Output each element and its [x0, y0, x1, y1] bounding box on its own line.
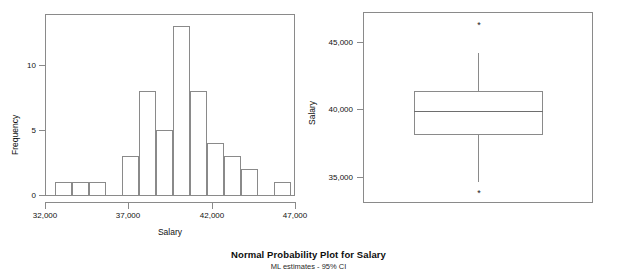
histogram-xtick	[212, 203, 213, 209]
histogram-xtick-label: 42,000	[192, 211, 232, 220]
figure-canvas: 0 5 10 32,000 37,000 42,000 47,000 Salar…	[0, 0, 617, 277]
histogram-xaxis-title: Salary	[130, 227, 210, 237]
histogram-xtick	[295, 203, 296, 209]
histogram-plot-area	[45, 14, 295, 196]
histogram-bar	[122, 156, 139, 195]
histogram-bar	[139, 91, 156, 195]
histogram-xtick	[128, 203, 129, 209]
histogram-yaxis-title: Frequency	[10, 115, 20, 155]
histogram-ytick	[39, 65, 45, 66]
boxplot-outlier-marker: *	[474, 189, 484, 198]
histogram-xtick-label: 37,000	[108, 211, 148, 220]
histogram-xaxis-line	[45, 202, 296, 203]
boxplot-box	[414, 91, 543, 135]
histogram-bar	[241, 169, 258, 195]
histogram-ytick-label: 0	[14, 191, 36, 200]
histogram-ytick	[39, 130, 45, 131]
boxplot-ytick-label: 35,000	[315, 173, 353, 182]
histogram-panel: 0 5 10 32,000 37,000 42,000 47,000 Salar…	[0, 0, 330, 240]
boxplot-ytick	[357, 109, 363, 110]
histogram-bar	[274, 182, 291, 195]
boxplot-ytick-label: 45,000	[315, 38, 353, 47]
figure-caption: Normal Probability Plot for Salary ML es…	[0, 249, 617, 272]
histogram-bar	[156, 130, 173, 195]
histogram-xtick-label: 32,000	[25, 211, 65, 220]
histogram-xtick-label: 47,000	[275, 211, 315, 220]
boxplot-plot-area: * *	[363, 12, 593, 203]
caption-title: Normal Probability Plot for Salary	[0, 249, 617, 261]
histogram-ytick	[39, 195, 45, 196]
boxplot-outlier-marker: *	[474, 21, 484, 30]
histogram-bar	[207, 143, 224, 195]
boxplot-ytick	[357, 42, 363, 43]
histogram-bars	[46, 15, 294, 195]
boxplot-panel: * * 45,000 40,000 35,000 Salary	[330, 0, 617, 240]
boxplot-ytick	[357, 177, 363, 178]
histogram-xtick	[45, 203, 46, 209]
boxplot-yaxis-title: Salary	[307, 101, 317, 125]
boxplot-median-line	[414, 111, 543, 112]
histogram-bar	[190, 91, 207, 195]
boxplot-ytick-label: 40,000	[315, 105, 353, 114]
histogram-bar	[89, 182, 106, 195]
histogram-bar	[224, 156, 241, 195]
histogram-bar	[55, 182, 72, 195]
boxplot-whisker-upper	[478, 53, 479, 91]
histogram-bar	[173, 26, 190, 195]
histogram-ytick-label: 10	[14, 61, 36, 70]
histogram-bar	[72, 182, 89, 195]
caption-subtitle: ML estimates - 95% CI	[0, 262, 617, 272]
boxplot-whisker-lower	[478, 135, 479, 182]
